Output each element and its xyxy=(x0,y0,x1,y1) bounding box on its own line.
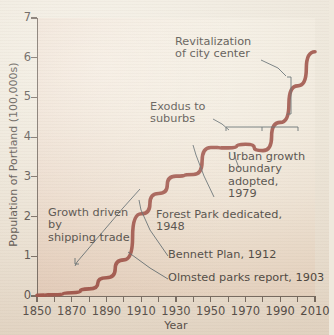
annotation-urban-growth-1979: Urban growth boundary adopted, 1979 xyxy=(228,151,328,201)
annotation-growth-shipping: Growth driven by shipping trade xyxy=(48,207,143,244)
leader-forest-park xyxy=(193,145,214,197)
annotation-revitalization: Revitalization of city center xyxy=(175,36,270,61)
annotation-forest-park-1948: Forest Park dedicated, 1948 xyxy=(156,209,306,234)
annotation-exodus-suburbs: Exodus to suburbs xyxy=(150,101,230,126)
bracket-revital xyxy=(287,77,291,114)
annotation-bennett-1912: Bennett Plan, 1912 xyxy=(168,249,308,261)
leader-olmsted xyxy=(128,252,168,279)
leader-revital xyxy=(261,60,286,76)
annotation-olmsted-1903: Olmsted parks report, 1903 xyxy=(168,272,328,284)
bracket-exodus xyxy=(226,127,298,131)
